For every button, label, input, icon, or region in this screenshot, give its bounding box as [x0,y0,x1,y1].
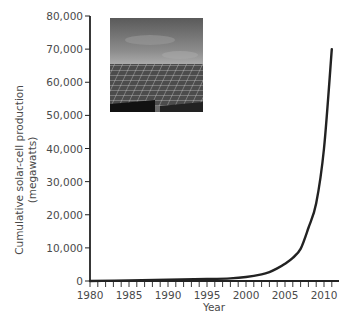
y-tick-label: 40,000 [46,143,83,155]
y-tick-label: 0 [76,275,83,287]
x-axis-title: Year [202,301,226,313]
x-tick-label: 2005 [272,289,299,301]
y-tick-label: 20,000 [46,209,83,221]
x-tick-label: 1980 [77,289,104,301]
x-tick-label: 1990 [155,289,182,301]
y-axis: 010,00020,00030,00040,00050,00060,00070,… [46,10,90,287]
y-tick-label: 50,000 [46,109,83,121]
x-axis: 1980198519901995200020052010 [77,281,339,301]
y-axis-title: Cumulative solar-cell production (megawa… [13,85,38,255]
x-tick-label: 1985 [116,289,143,301]
y-tick-label: 70,000 [46,43,83,55]
y-tick-label: 30,000 [46,176,83,188]
solar-panel-photo [110,18,203,112]
y-tick-label: 80,000 [46,10,83,22]
svg-text:Cumulative solar-cell producti: Cumulative solar-cell production [13,85,25,255]
x-tick-label: 1995 [194,289,221,301]
y-tick-label: 60,000 [46,76,83,88]
svg-text:(megawatts): (megawatts) [26,137,38,204]
y-tick-label: 10,000 [46,242,83,254]
x-tick-label: 2010 [311,289,338,301]
x-tick-label: 2000 [233,289,260,301]
chart: 010,00020,00030,00040,00050,00060,00070,… [0,0,353,326]
